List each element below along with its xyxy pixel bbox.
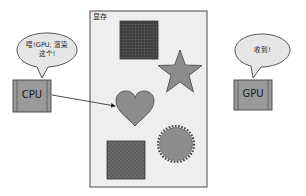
gpu-speech-bubble	[235, 34, 290, 78]
cpu-label: CPU	[13, 89, 51, 100]
memory-label: 显存	[93, 13, 107, 22]
cpu-speech-line1: 喂!GPU, 渲染	[19, 41, 75, 50]
gpu-speech-text: 收到!	[237, 46, 288, 55]
textured-square-shape	[107, 141, 145, 179]
grid-square-shape	[120, 21, 158, 59]
gpu-label: GPU	[234, 88, 272, 99]
cpu-speech-line2: 这个!	[19, 50, 75, 59]
